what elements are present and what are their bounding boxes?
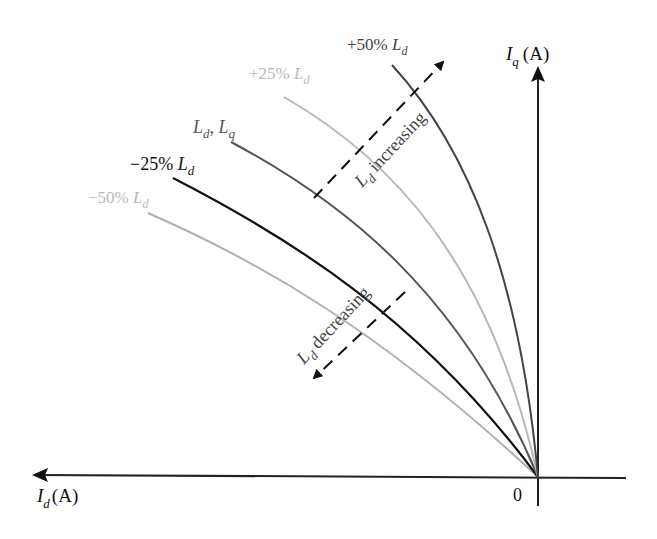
- curve-plus25-ld: [284, 97, 538, 477]
- axis-labels: Iq(A) Id(A) 0: [36, 43, 549, 511]
- curve-nominal-ld-lq: [231, 142, 538, 477]
- label-minus25-ld: −25% Ld: [130, 154, 195, 178]
- label-minus50-ld: −50% Ld: [88, 188, 149, 211]
- label-plus25-ld: +25% Ld: [249, 64, 310, 87]
- iq-axis-label: Iq(A): [505, 43, 549, 69]
- label-plus50-ld: +50% Ld: [347, 35, 408, 58]
- label-nominal-ld-lq: Ld, Lq: [192, 117, 236, 141]
- origin-label: 0: [513, 485, 522, 505]
- axes: [34, 68, 626, 506]
- curve-minus50-ld: [148, 213, 538, 477]
- mtpa-diagram: −50% Ld −25% Ld Ld, Lq +25% Ld +50% Ld L…: [0, 0, 657, 539]
- id-axis-label: Id(A): [36, 485, 78, 511]
